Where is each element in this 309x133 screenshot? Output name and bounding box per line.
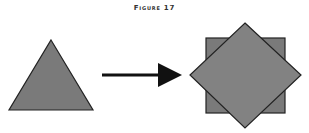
figure-diagram: [0, 0, 309, 133]
triangle-shape: [9, 40, 93, 110]
